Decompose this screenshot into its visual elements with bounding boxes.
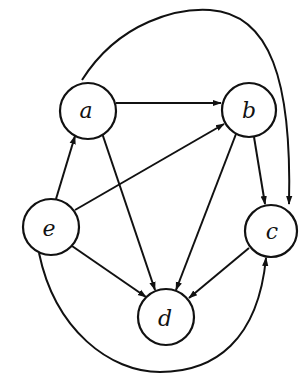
graph-canvas: a b c d e: [0, 0, 306, 384]
node-b-label: b: [242, 98, 256, 123]
node-b: b: [222, 83, 276, 137]
node-d: d: [138, 289, 194, 345]
node-a: a: [60, 83, 116, 139]
edge-e-a: [56, 136, 75, 199]
node-c: c: [245, 205, 297, 257]
node-e: e: [23, 199, 79, 255]
edge-a-d: [102, 133, 155, 290]
node-a-label: a: [79, 98, 92, 123]
edge-e-d: [72, 246, 146, 297]
edge-b-c: [254, 137, 265, 204]
node-e-label: e: [42, 216, 55, 241]
edge-c-d: [189, 248, 249, 298]
node-d-label: d: [158, 306, 172, 331]
node-c-label: c: [266, 219, 278, 244]
